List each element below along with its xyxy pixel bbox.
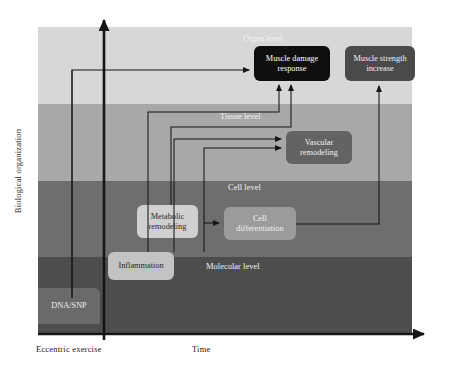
edge-dna-to-damage <box>72 70 249 298</box>
x-axis-origin-label: Eccentric exercise <box>36 344 102 354</box>
figure-canvas: Organ levelTissue levelCell levelMolecul… <box>0 0 451 366</box>
edge-metabolic-to-vascular <box>174 139 281 252</box>
edge-celldiff-to-strength <box>296 86 379 224</box>
x-axis-label: Time <box>192 344 210 354</box>
edge-inflammation-to-damage <box>148 85 279 252</box>
y-axis-label: Biological organization <box>13 106 23 236</box>
connector-layer <box>0 0 451 366</box>
edge-metabolic-to-damage <box>171 85 291 205</box>
edge-inflammation-to-vascular <box>204 148 281 252</box>
